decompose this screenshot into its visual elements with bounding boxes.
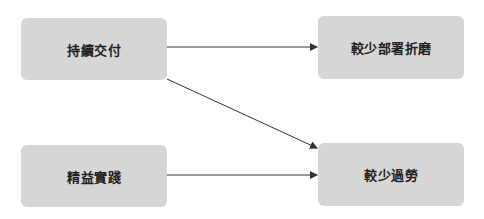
node-continuous-delivery: 持續交付 (21, 18, 167, 80)
node-less-deployment-pain: 較少部署折磨 (318, 16, 464, 79)
node-label: 精益實踐 (67, 167, 121, 186)
edge-continuous-delivery-to-less-burnout (167, 79, 317, 148)
node-lean-practices: 精益實踐 (21, 145, 167, 207)
node-label: 較少過勞 (364, 165, 418, 184)
node-label: 持續交付 (67, 40, 121, 59)
node-label: 較少部署折磨 (351, 38, 432, 57)
node-less-burnout: 較少過勞 (318, 143, 464, 206)
